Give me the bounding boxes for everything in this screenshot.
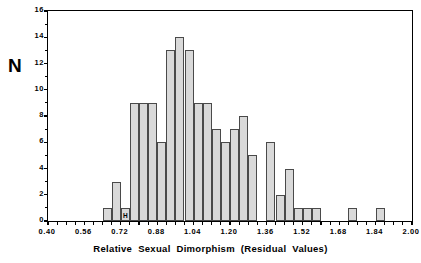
histogram-bar xyxy=(185,50,194,221)
y-axis-tick-label: 14 xyxy=(22,32,44,40)
y-axis-tick-label: 6 xyxy=(22,137,44,145)
x-axis-tick-label: 1.36 xyxy=(257,228,274,236)
y-axis-minor-tick xyxy=(45,50,48,51)
x-axis-minor-tick xyxy=(275,222,276,225)
x-axis-tick-label: 0.72 xyxy=(111,228,128,236)
histogram-bars: H xyxy=(48,11,412,221)
x-axis-major-tick xyxy=(375,221,376,226)
x-axis-minor-tick xyxy=(284,222,285,225)
histogram-bar xyxy=(203,103,212,221)
histogram-bar xyxy=(376,208,385,221)
y-axis-minor-tick xyxy=(45,24,48,25)
histogram-bar xyxy=(285,169,294,222)
y-axis-minor-tick xyxy=(45,155,48,156)
histogram-bar xyxy=(239,116,248,221)
x-axis-tick-label: 0.40 xyxy=(39,228,56,236)
x-axis-tick-label: 2.00 xyxy=(403,228,420,236)
histogram-bar: H xyxy=(121,208,130,221)
x-axis-major-tick xyxy=(120,221,121,226)
x-axis-minor-tick xyxy=(220,222,221,225)
histogram-bar xyxy=(221,142,230,221)
histogram-bar xyxy=(166,50,175,221)
histogram-bar xyxy=(348,208,357,221)
y-axis-major-tick xyxy=(44,194,49,195)
y-axis-minor-tick xyxy=(45,76,48,77)
x-axis-minor-tick xyxy=(384,222,385,225)
x-axis-major-tick xyxy=(411,221,412,226)
x-axis-minor-tick xyxy=(211,222,212,225)
x-axis-major-tick xyxy=(302,221,303,226)
x-axis-tick-label: 1.20 xyxy=(221,228,238,236)
y-axis-major-tick xyxy=(44,168,49,169)
x-axis-minor-tick xyxy=(248,222,249,225)
x-axis-minor-tick xyxy=(293,222,294,225)
histogram-bar xyxy=(248,155,257,221)
histogram-bar xyxy=(194,103,203,221)
x-axis-minor-tick xyxy=(239,222,240,225)
x-axis-minor-tick xyxy=(366,222,367,225)
histogram-bar xyxy=(212,129,221,221)
x-axis-minor-tick xyxy=(138,222,139,225)
x-axis-minor-tick xyxy=(330,222,331,225)
y-axis-major-tick xyxy=(44,37,49,38)
x-axis-major-tick xyxy=(339,221,340,226)
y-axis-tick-label: 2 xyxy=(22,190,44,198)
y-axis-major-tick xyxy=(44,10,49,11)
x-axis-minor-tick xyxy=(348,222,349,225)
x-axis-minor-tick xyxy=(93,222,94,225)
x-axis-minor-tick xyxy=(148,222,149,225)
y-axis-tick-label: 4 xyxy=(22,164,44,172)
x-axis-minor-tick xyxy=(320,222,321,225)
x-axis-major-tick xyxy=(193,221,194,226)
x-axis-minor-tick xyxy=(102,222,103,225)
histogram-figure: N 0246810121416 H 0.400.560.720.881.041.… xyxy=(0,0,421,263)
histogram-bar xyxy=(139,103,148,221)
y-axis-minor-tick xyxy=(45,129,48,130)
y-axis-major-tick xyxy=(44,63,49,64)
histogram-bar xyxy=(175,37,184,221)
y-axis-tick-label: 10 xyxy=(22,85,44,93)
histogram-bar xyxy=(130,103,139,221)
x-axis-tick-label: 0.56 xyxy=(75,228,92,236)
histogram-bar xyxy=(303,208,312,221)
y-axis-tick-labels: 0246810121416 xyxy=(20,0,44,263)
x-axis-tick-label: 1.04 xyxy=(184,228,201,236)
y-axis-tick-label: 12 xyxy=(22,59,44,67)
histogram-bar xyxy=(112,182,121,221)
histogram-bar xyxy=(230,129,239,221)
histogram-bar xyxy=(103,208,112,221)
x-axis-minor-tick xyxy=(202,222,203,225)
histogram-bar xyxy=(266,142,275,221)
x-axis-tick-label: 0.88 xyxy=(148,228,165,236)
y-axis-tick-label: 16 xyxy=(22,6,44,14)
x-axis-major-tick xyxy=(157,221,158,226)
x-axis-minor-tick xyxy=(129,222,130,225)
y-axis-tick-label: 8 xyxy=(22,111,44,119)
y-axis-major-tick xyxy=(44,142,49,143)
histogram-bar xyxy=(157,142,166,221)
plot-area: H xyxy=(47,10,413,222)
x-axis-minor-tick xyxy=(66,222,67,225)
x-axis-minor-tick xyxy=(257,222,258,225)
y-axis-major-tick xyxy=(44,115,49,116)
histogram-bar xyxy=(294,208,303,221)
x-axis-tick-label: 1.52 xyxy=(293,228,310,236)
x-axis-minor-tick xyxy=(166,222,167,225)
histogram-bar xyxy=(276,195,285,221)
y-axis-minor-tick xyxy=(45,181,48,182)
x-axis-major-tick xyxy=(229,221,230,226)
x-axis-major-tick xyxy=(266,221,267,226)
x-axis-minor-tick xyxy=(357,222,358,225)
y-axis-minor-tick xyxy=(45,102,48,103)
y-axis-tick-label: 0 xyxy=(22,216,44,224)
bar-annotation-label: H xyxy=(123,212,128,219)
histogram-bar xyxy=(312,208,321,221)
x-axis-major-tick xyxy=(84,221,85,226)
x-axis-minor-tick xyxy=(184,222,185,225)
y-axis-minor-tick xyxy=(45,207,48,208)
x-axis-minor-tick xyxy=(175,222,176,225)
x-axis-tick-label: 1.68 xyxy=(330,228,347,236)
y-axis-major-tick xyxy=(44,89,49,90)
x-axis-title: Relative Sexual Dimorphism (Residual Val… xyxy=(0,243,421,254)
x-axis-minor-tick xyxy=(402,222,403,225)
